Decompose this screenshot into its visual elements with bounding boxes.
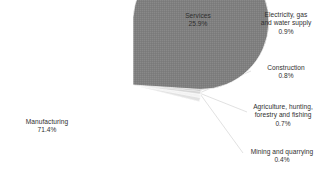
slice-label-electricity-name-line1: Electricity, gas bbox=[238, 11, 334, 19]
slice-label-mining: Mining and quarrying 0.4% bbox=[230, 148, 334, 165]
slice-label-construction-value: 0.8% bbox=[238, 72, 334, 80]
slice-label-electricity-value: 0.9% bbox=[238, 28, 334, 36]
pie-chart-figure: Services 25.9% Manufacturing 71.4% Elect… bbox=[0, 0, 336, 182]
slice-label-agriculture-value: 0.7% bbox=[232, 120, 334, 128]
slice-label-mining-value: 0.4% bbox=[230, 156, 334, 164]
slice-label-mining-name: Mining and quarrying bbox=[230, 148, 334, 156]
slice-label-agriculture: Agriculture, hunting, forestry and fishi… bbox=[232, 103, 334, 128]
slice-label-electricity-name-line2: and water supply bbox=[238, 19, 334, 27]
slice-label-services-value: 25.9% bbox=[168, 20, 228, 28]
slice-label-services: Services 25.9% bbox=[168, 12, 228, 29]
slice-label-services-name: Services bbox=[168, 12, 228, 20]
slice-label-construction-name: Construction bbox=[238, 64, 334, 72]
slice-label-construction: Construction 0.8% bbox=[238, 64, 334, 81]
slice-label-electricity: Electricity, gas and water supply 0.9% bbox=[238, 11, 334, 36]
slice-label-agriculture-name-line1: Agriculture, hunting, bbox=[232, 103, 334, 111]
slice-label-manufacturing-name: Manufacturing bbox=[8, 118, 86, 126]
slice-label-manufacturing: Manufacturing 71.4% bbox=[8, 118, 86, 135]
slice-label-agriculture-name-line2: forestry and fishing bbox=[232, 111, 334, 119]
slice-label-manufacturing-value: 71.4% bbox=[8, 126, 86, 134]
